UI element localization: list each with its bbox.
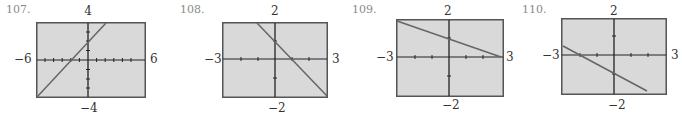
exercise-108: 108. 2 −3 3 −2: [170, 0, 340, 120]
exercise-number: 109.: [352, 3, 377, 16]
xmax-label: 6: [150, 52, 158, 66]
ymax-label: 2: [610, 4, 618, 18]
exercise-number: 108.: [180, 3, 205, 16]
graph-screen: [36, 22, 146, 98]
graph-screen: [222, 22, 328, 98]
graph-screen: [561, 18, 667, 95]
exercise-109: 109. 2 −3 3 −2: [340, 0, 510, 120]
ymin-label: −2: [442, 98, 460, 112]
exercise-number: 107.: [6, 3, 31, 16]
exercise-110: 110. 2 −3 3 −2: [510, 0, 682, 120]
xmax-label: 3: [332, 52, 340, 66]
ymin-label: −2: [268, 101, 286, 115]
xmax-label: 3: [671, 48, 679, 62]
exercise-107: 107. 4 −6 6 −4: [0, 0, 170, 120]
xmin-label: −3: [376, 50, 394, 64]
ymax-label: 2: [271, 4, 279, 18]
ymin-label: −4: [80, 101, 98, 115]
xmin-label: −6: [14, 52, 32, 66]
graph-screen: [396, 19, 504, 97]
xmin-label: −3: [204, 52, 222, 66]
xmin-label: −3: [542, 48, 560, 62]
ymin-label: −2: [608, 98, 626, 112]
ymax-label: 2: [444, 4, 452, 18]
ymax-label: 4: [82, 4, 94, 18]
exercise-number: 110.: [522, 3, 547, 16]
